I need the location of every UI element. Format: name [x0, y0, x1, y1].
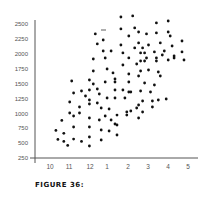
data-point [141, 47, 144, 50]
data-point [110, 50, 113, 53]
data-point [62, 140, 65, 143]
data-point [137, 117, 140, 120]
data-point [80, 140, 83, 143]
data-point [57, 138, 60, 141]
data-point [104, 57, 107, 60]
x-tick-label: 12 [83, 163, 97, 170]
data-point [96, 102, 99, 105]
y-tick-label: 1250 [2, 96, 28, 102]
data-point [157, 71, 160, 74]
data-point [137, 104, 140, 107]
data-point [167, 31, 170, 34]
y-tick-label: 500 [2, 140, 28, 146]
data-point [155, 22, 158, 25]
data-point [122, 89, 125, 92]
data-point [108, 108, 111, 111]
data-point [88, 89, 91, 92]
data-point [161, 54, 164, 57]
data-point [163, 50, 166, 53]
data-point [104, 115, 107, 118]
data-point [139, 70, 142, 73]
data-point [120, 44, 123, 47]
data-point [92, 58, 95, 61]
data-point [167, 59, 170, 62]
data-point [139, 90, 142, 93]
data-point [84, 95, 87, 98]
data-point [114, 89, 117, 92]
data-point [116, 134, 119, 137]
x-tick-label: 2 [121, 163, 135, 170]
data-point [88, 99, 91, 102]
data-point [116, 124, 119, 127]
data-point [120, 16, 123, 19]
data-point [127, 35, 130, 38]
data-point [72, 138, 75, 141]
y-tick-label: 2250 [2, 36, 28, 42]
data-point [181, 51, 184, 54]
data-point [92, 70, 95, 73]
data-point [88, 103, 91, 106]
data-point [143, 60, 146, 63]
data-point [129, 91, 132, 94]
data-point [141, 100, 144, 103]
data-point [127, 57, 130, 60]
data-point [124, 97, 127, 100]
data-point [159, 42, 162, 45]
data-point [155, 32, 158, 35]
data-point [72, 115, 75, 118]
data-point [120, 28, 123, 31]
y-tick-label: 750 [2, 125, 28, 131]
data-point [173, 57, 176, 60]
data-point [114, 81, 117, 84]
data-point [147, 44, 150, 47]
data-point [102, 50, 105, 53]
data-point [72, 92, 75, 95]
data-point [78, 106, 81, 109]
x-tick-label: 1 [100, 163, 114, 170]
x-tick-label: 5 [181, 163, 195, 170]
data-point [122, 64, 125, 67]
data-point [88, 136, 91, 139]
y-tick-label: 2000 [2, 51, 28, 57]
y-tick-label: 1000 [2, 111, 28, 117]
data-point [88, 117, 91, 120]
data-point [68, 112, 71, 115]
data-point [110, 119, 113, 122]
data-point [157, 99, 160, 102]
data-points [55, 15, 186, 148]
data-point [104, 81, 107, 84]
data-point [112, 72, 115, 75]
data-point [139, 52, 142, 55]
data-point [98, 119, 101, 122]
data-point [66, 144, 69, 147]
data-point [127, 73, 130, 76]
data-point [153, 51, 156, 54]
data-point [183, 59, 186, 62]
data-point [94, 33, 97, 36]
figure-caption: FIGURE 36: [35, 181, 84, 189]
data-point [96, 88, 99, 91]
data-point [88, 145, 91, 148]
data-point [169, 35, 172, 38]
y-tick-label: 1750 [2, 66, 28, 72]
data-point [151, 100, 154, 103]
data-point [139, 60, 142, 63]
x-tick-label: 3 [141, 163, 155, 170]
data-point [96, 43, 99, 46]
scatter-chart: 2500225020001750150012501000750500250 10… [0, 0, 211, 197]
data-point [141, 111, 144, 114]
data-point [68, 101, 71, 104]
data-point [133, 27, 136, 30]
data-point [88, 79, 91, 82]
data-point [92, 83, 95, 86]
x-tick-label: 4 [161, 163, 175, 170]
data-point [137, 75, 140, 78]
data-point [60, 119, 63, 122]
data-point [127, 81, 130, 84]
data-point [137, 42, 140, 45]
data-point [145, 33, 148, 36]
data-point [100, 139, 103, 142]
data-point [137, 31, 140, 34]
data-point [135, 63, 138, 66]
data-point [114, 78, 117, 81]
